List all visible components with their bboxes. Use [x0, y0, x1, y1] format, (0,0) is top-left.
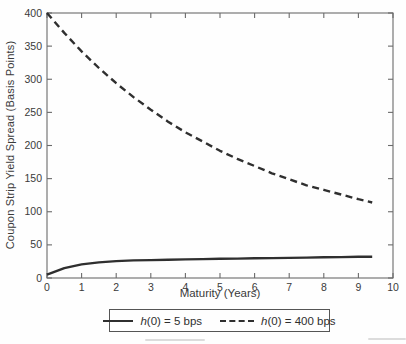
y-tick-label: 200: [24, 139, 42, 151]
y-tick-label: 100: [24, 205, 42, 217]
legend: h(0) = 5 bps h(0) = 400 bps: [109, 309, 330, 332]
series-line-solid: [47, 257, 372, 275]
scan-artifact: [368, 338, 406, 340]
y-axis-title: Coupon Strip Yield Spread (Basis Points): [4, 41, 16, 250]
y-tick-label: 50: [30, 238, 42, 250]
y-tick-label: 400: [24, 7, 42, 19]
x-axis-title: Maturity (Years): [47, 287, 393, 299]
y-tick-label: 250: [24, 106, 42, 118]
y-tick-label: 350: [24, 40, 42, 52]
legend-label-rest: (0) = 5 bps: [147, 315, 202, 327]
solid-line-swatch: [103, 320, 133, 322]
y-tick-label: 0: [36, 272, 42, 284]
y-tick-label: 300: [24, 73, 42, 85]
dashed-line-swatch: [220, 320, 254, 322]
scan-artifact: [145, 339, 205, 341]
legend-label: h(0) = 400 bps: [261, 315, 336, 327]
series-line-dashed: [47, 13, 372, 203]
plot-frame: [47, 13, 393, 278]
y-tick-label: 150: [24, 172, 42, 184]
legend-item-solid: h(0) = 5 bps: [103, 315, 202, 327]
legend-label-rest: (0) = 400 bps: [268, 315, 336, 327]
legend-label: h(0) = 5 bps: [140, 315, 202, 327]
figure: 012345678910050100150200250300350400 Cou…: [0, 0, 406, 344]
legend-item-dashed: h(0) = 400 bps: [220, 315, 336, 327]
